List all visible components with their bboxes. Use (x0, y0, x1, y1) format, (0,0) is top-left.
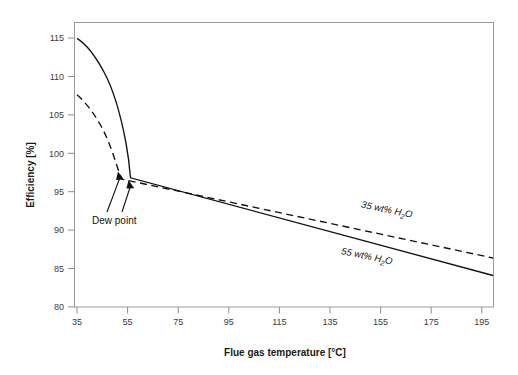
y-tick-label: 85 (54, 264, 64, 274)
x-tick-label: 55 (123, 317, 133, 327)
efficiency-vs-flue-gas-temperature-chart: 115 110 105 100 95 90 85 80 35 55 75 95 (0, 0, 518, 375)
chart-figure: 115 110 105 100 95 90 85 80 35 55 75 95 (0, 0, 518, 375)
x-tick-label: 95 (224, 317, 234, 327)
x-tick-label: 35 (72, 317, 82, 327)
x-axis-title: Flue gas temperature [°C] (224, 347, 346, 358)
x-tick-label: 135 (322, 317, 337, 327)
x-tick-label: 155 (373, 317, 388, 327)
y-axis-title: Efficiency [%] (25, 142, 36, 208)
y-tick-label: 100 (49, 149, 64, 159)
x-tick-label: 115 (272, 317, 286, 327)
y-tick-label: 90 (54, 225, 64, 235)
x-tick-label: 175 (424, 317, 439, 327)
x-tick-label: 195 (474, 317, 489, 327)
y-tick-label: 115 (50, 33, 64, 43)
y-tick-label: 110 (50, 72, 64, 82)
y-tick-label: 80 (54, 302, 64, 312)
y-tick-label: 95 (54, 187, 64, 197)
dew-point-label: Dew point (92, 215, 137, 226)
y-tick-label: 105 (49, 110, 64, 120)
plot-area-frame (75, 23, 494, 308)
x-tick-label: 75 (173, 317, 183, 327)
